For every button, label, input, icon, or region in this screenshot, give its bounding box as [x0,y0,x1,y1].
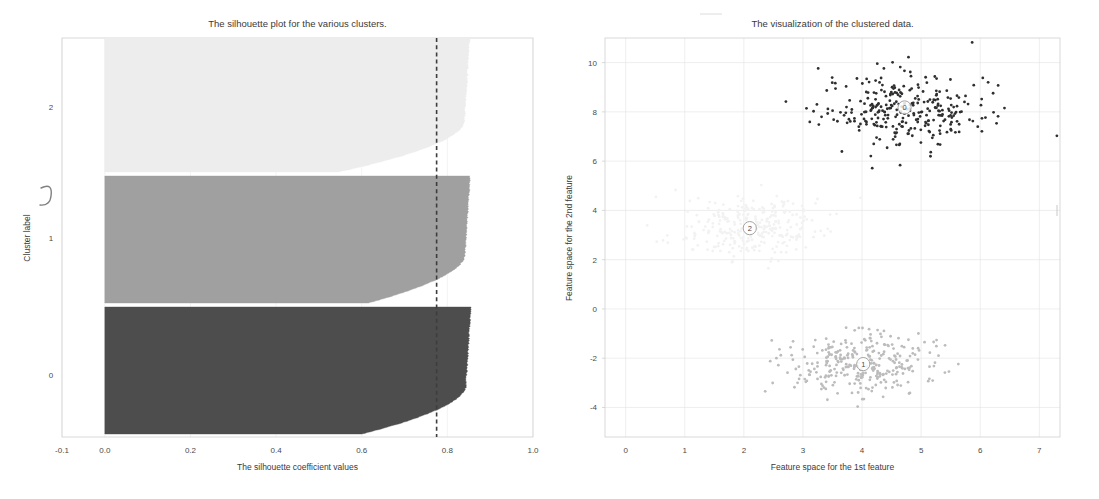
scatter-point [725,237,728,240]
scatter-point [913,127,916,130]
scatter-point [871,367,874,370]
scatter-point [876,62,879,65]
scatter-point [937,354,940,357]
scatter-point [846,121,849,124]
scatter-point [801,205,804,208]
scatter-point [903,69,906,72]
scatter-point [921,110,924,113]
scatter-point [761,235,764,238]
scatter-point [954,112,957,115]
scatter-xtick-label-7: 7 [1037,446,1042,455]
scatter-point [997,115,1000,118]
scatter-point [927,380,930,383]
scatter-point [801,221,804,224]
silhouette-xtick-label-0: -0.1 [55,446,69,455]
scatter-point [733,231,736,234]
scatter-point [857,391,860,394]
scatter-point [895,131,898,134]
scatter-point [769,260,772,263]
centroid-marker-2: 2 [743,222,756,235]
scatter-point [848,99,851,102]
scatter-point [956,105,959,108]
scatter-point [674,189,677,192]
scatter-point [860,113,863,116]
scatter-xtick-label-0: 0 [623,446,628,455]
scatter-point [870,390,873,393]
scatter-point [896,384,899,387]
scatter-point [686,225,689,228]
scatter-point [859,123,862,126]
scatter-point [716,235,719,238]
scatter-point [742,213,745,216]
scatter-point [911,134,914,137]
scatter-point [816,103,819,106]
scatter-point [707,232,710,235]
scatter-point [764,390,767,393]
scatter-point [737,195,740,198]
scatter-point [855,378,858,381]
scatter-point [853,120,856,123]
scatter-point [740,237,743,240]
scatter-point [980,130,983,133]
scatter-point [917,86,920,89]
scatter-point [786,371,789,374]
silhouette-xtick-label-6: 1.0 [527,446,539,455]
scatter-point [902,85,905,88]
scatter-point [924,124,927,127]
scatter-point [932,341,935,344]
scatter-point [895,367,898,370]
scatter-point [894,91,897,94]
scatter-point [729,243,732,246]
scatter-point [928,110,931,113]
scatter-point [873,91,876,94]
scatter-point [853,329,856,332]
scatter-point [902,117,905,120]
scatter-point [875,136,878,139]
scatter-point [754,215,757,218]
scatter-point [865,78,868,81]
scatter-point [790,235,793,238]
scatter-point [880,77,883,80]
scatter-point [871,350,874,353]
scatter-point [774,215,777,218]
scatter-point [845,85,848,88]
scatter-point [883,343,886,346]
scatter-point [741,206,744,209]
scatter-point [877,352,880,355]
scatter-point [857,125,860,128]
scatter-point [690,225,693,228]
scatter-point [917,332,920,335]
scatter-point [878,357,881,360]
scatter-point [816,198,819,201]
scatter-xtick-label-1: 1 [683,446,688,455]
scatter-point [799,374,802,377]
scatter-point [845,106,848,109]
scatter-point [860,341,863,344]
scatter-point [885,104,888,107]
scatter-point [949,123,952,126]
scatter-point [825,337,828,340]
scatter-point [693,237,696,240]
centroid-marker-1: 1 [857,357,870,370]
scatter-point [956,94,959,97]
scatter-point [780,234,783,237]
scatter-point [816,378,819,381]
scatter-point [931,136,934,139]
scatter-point [767,232,770,235]
scatter-point [736,210,739,213]
scatter-point [812,236,815,239]
scatter-point [816,361,819,364]
scatter-point [912,104,915,107]
scatter-point [915,118,918,121]
scatter-point [898,89,901,92]
scatter-point [646,224,649,227]
scatter-point [992,111,995,114]
scatter-point [856,353,859,356]
scatter-point [733,223,736,226]
scatter-yaxis-label: Feature space for the 2nd feature [564,175,574,301]
figure-canvas: -0.10.00.20.40.60.81.0012The silhouette … [0,0,1099,499]
scatter-point [880,89,883,92]
scatter-point [853,117,856,120]
scatter-xaxis-label: Feature space for the 1st feature [771,462,895,472]
scatter-point [797,233,800,236]
